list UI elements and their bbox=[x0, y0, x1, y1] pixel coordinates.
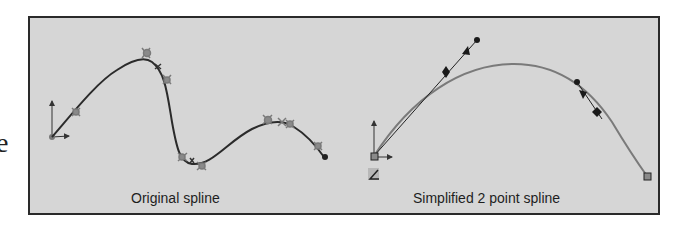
figure-canvas bbox=[30, 18, 658, 213]
start-point-square[interactable] bbox=[371, 153, 378, 160]
spline-end-dot bbox=[322, 154, 328, 160]
simplified-spline-panel bbox=[368, 37, 651, 180]
angle-icon bbox=[368, 168, 379, 180]
spline-comparison-figure: Original spline Simplified 2 point splin… bbox=[28, 16, 660, 215]
end-point-square[interactable] bbox=[644, 173, 651, 180]
tangent-handle-start[interactable] bbox=[374, 37, 480, 156]
simplified-spline-curve[interactable] bbox=[374, 64, 647, 176]
original-spline-panel bbox=[49, 48, 328, 170]
original-spline-caption: Original spline bbox=[131, 190, 220, 206]
spline-point-markers bbox=[72, 48, 322, 170]
simplified-spline-caption: Simplified 2 point spline bbox=[413, 190, 560, 206]
original-spline-curve[interactable] bbox=[52, 59, 324, 164]
cropped-text-fragment: e bbox=[0, 127, 8, 159]
